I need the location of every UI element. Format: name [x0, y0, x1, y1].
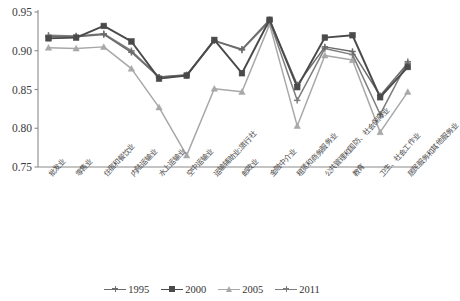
data-point-square [73, 35, 79, 41]
legend-label: 2000 [185, 284, 206, 295]
data-point-square [212, 37, 218, 43]
data-point-triangle [405, 89, 411, 95]
data-point-square [294, 84, 300, 90]
legend-key-icon [218, 284, 240, 295]
legend-key-icon [104, 284, 126, 295]
legend-label: 1995 [128, 284, 149, 295]
data-point-square [267, 17, 273, 23]
data-point-square [239, 70, 245, 76]
chart-legend: 1995200020052011 [0, 279, 424, 299]
legend-item-1995[interactable]: 1995 [104, 284, 149, 295]
data-point-square [156, 76, 162, 82]
y-axis-tick-label: 0.85 [12, 84, 32, 96]
data-point-triangle [294, 123, 300, 129]
data-point-square [377, 94, 383, 100]
data-point-square [405, 64, 411, 70]
series-line-2005 [49, 24, 408, 155]
legend-key-icon [275, 284, 297, 295]
data-point-square [46, 36, 52, 42]
legend-item-2005[interactable]: 2005 [218, 284, 263, 295]
legend-label: 2005 [242, 284, 263, 295]
legend-item-2011[interactable]: 2011 [275, 284, 320, 295]
data-point-square [129, 39, 135, 45]
series-2000 [46, 17, 411, 100]
y-axis-tick-label: 0.80 [12, 122, 32, 134]
legend-key-icon [161, 284, 183, 295]
data-point-square [350, 32, 356, 38]
y-axis-tick-label: 0.90 [12, 45, 32, 57]
data-point-square [101, 23, 107, 29]
y-axis-tick-label: 0.95 [12, 6, 32, 18]
data-point-square [184, 73, 190, 79]
data-point-triangle [183, 152, 189, 158]
y-axis-tick-label: 0.75 [12, 161, 32, 173]
legend-label: 2011 [299, 284, 320, 295]
data-point-square [322, 35, 328, 41]
legend-item-2000[interactable]: 2000 [161, 284, 206, 295]
